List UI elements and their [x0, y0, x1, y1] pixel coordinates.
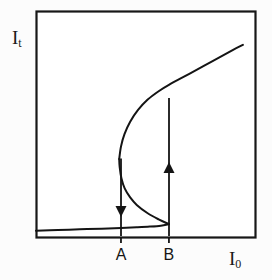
x-axis-label-subscript: 0	[235, 257, 241, 271]
bistability-figure: It I0 A B	[0, 0, 272, 280]
x-tick-label-a: A	[109, 247, 133, 263]
y-axis-label-subscript: t	[18, 36, 21, 50]
x-tick-label-b: B	[157, 247, 181, 263]
plot-canvas	[0, 0, 272, 280]
y-axis-label: It	[12, 28, 22, 49]
plot-frame	[37, 12, 256, 238]
x-axis-label: I0	[229, 249, 241, 270]
